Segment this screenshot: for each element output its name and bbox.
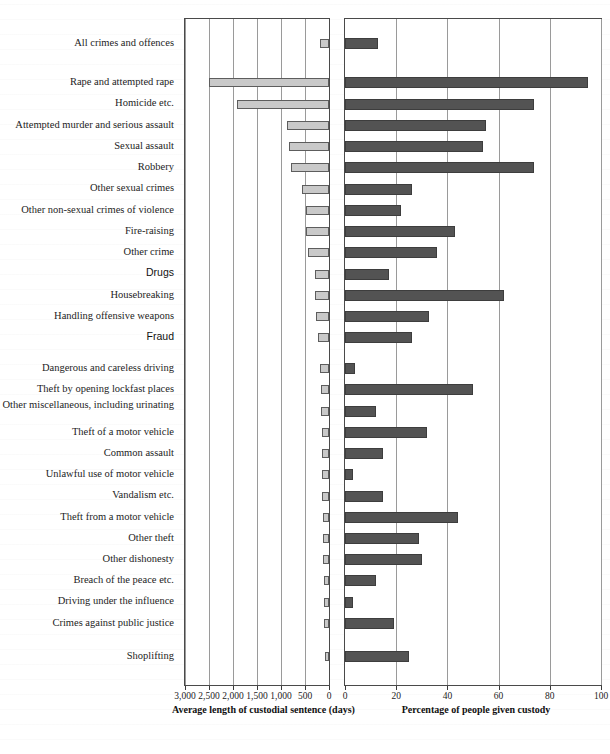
bar-percentage-custody <box>345 99 534 110</box>
bar-sentence-length <box>306 227 329 236</box>
axis-tick <box>305 686 306 690</box>
axis-tick <box>550 686 551 690</box>
bar-sentence-length <box>322 470 329 479</box>
bar-percentage-custody <box>345 332 412 343</box>
category-label-column: All crimes and offencesRape and attempte… <box>0 18 180 686</box>
category-label: Breach of the peace etc. <box>73 574 174 586</box>
bar-percentage-custody <box>345 597 353 608</box>
gridline <box>396 19 397 685</box>
bar-sentence-length <box>315 291 329 300</box>
bar-sentence-length <box>321 407 329 416</box>
bar-sentence-length <box>209 78 329 87</box>
axis-tick <box>233 686 234 690</box>
bar-sentence-length <box>324 619 329 628</box>
bar-percentage-custody <box>345 651 409 662</box>
category-label: Housebreaking <box>110 289 174 301</box>
panel-average-sentence-length <box>184 18 330 686</box>
category-label: Homicide etc. <box>115 97 174 109</box>
category-label: Other non-sexual crimes of violence <box>21 204 174 216</box>
bar-percentage-custody <box>345 247 437 258</box>
category-label: Robbery <box>138 161 174 173</box>
bar-percentage-custody <box>345 618 394 629</box>
axis-tick-label: 20 <box>372 691 420 701</box>
axis-tick <box>281 686 282 690</box>
axis-tick-label: 80 <box>526 691 574 701</box>
axis-tick <box>601 686 602 690</box>
axis-tick-label: 60 <box>475 691 523 701</box>
axis-tick <box>329 686 330 690</box>
category-label: Driving under the influence <box>58 595 174 607</box>
gridline <box>550 19 551 685</box>
left-axis-title: Average length of custodial sentence (da… <box>172 704 342 715</box>
bar-percentage-custody <box>345 269 389 280</box>
bar-sentence-length <box>323 513 329 522</box>
bar-sentence-length <box>302 185 329 194</box>
gridline <box>281 19 282 685</box>
gridline <box>257 19 258 685</box>
bar-percentage-custody <box>345 226 455 237</box>
category-label: Crimes against public justice <box>52 617 174 629</box>
bar-percentage-custody <box>345 384 473 395</box>
category-label: Theft of a motor vehicle <box>72 426 174 438</box>
category-label: Rape and attempted rape <box>70 76 174 88</box>
bar-sentence-length <box>323 534 329 543</box>
gridline <box>233 19 234 685</box>
category-label: Common assault <box>104 447 174 459</box>
bar-percentage-custody <box>345 448 383 459</box>
bar-sentence-length <box>322 449 329 458</box>
bar-percentage-custody <box>345 533 419 544</box>
right-axis-title: Percentage of people given custody <box>348 704 604 715</box>
bar-sentence-length <box>325 652 329 661</box>
bar-percentage-custody <box>345 141 483 152</box>
bar-sentence-length <box>324 598 329 607</box>
bar-percentage-custody <box>345 162 534 173</box>
gridline <box>499 19 500 685</box>
category-label: Theft from a motor vehicle <box>60 511 174 523</box>
axis-tick <box>209 686 210 690</box>
bar-percentage-custody <box>345 469 353 480</box>
bar-sentence-length <box>323 555 329 564</box>
category-label: Handling offensive weapons <box>54 310 174 322</box>
bar-percentage-custody <box>345 363 355 374</box>
category-label: Fire-raising <box>125 225 174 237</box>
bar-percentage-custody <box>345 575 376 586</box>
gridline <box>447 19 448 685</box>
bar-sentence-length <box>287 121 329 130</box>
bar-sentence-length <box>320 39 329 48</box>
bar-percentage-custody <box>345 184 412 195</box>
gridline <box>305 19 306 685</box>
bar-percentage-custody <box>345 77 588 88</box>
bar-sentence-length <box>316 312 329 321</box>
category-label: Drugs <box>146 267 174 279</box>
bar-percentage-custody <box>345 406 376 417</box>
panel-percentage-given-custody <box>344 18 602 686</box>
bar-sentence-length <box>324 576 329 585</box>
axis-tick <box>345 686 346 690</box>
category-label: Vandalism etc. <box>112 489 174 501</box>
bar-sentence-length <box>315 270 329 279</box>
bar-sentence-length <box>289 142 329 151</box>
category-label: Unlawful use of motor vehicle <box>46 468 174 480</box>
butterfly-bar-chart: All crimes and offencesRape and attempte… <box>0 0 610 754</box>
category-label: Other crime <box>124 246 174 258</box>
category-label: Sexual assault <box>114 140 174 152</box>
category-label: Other dishonesty <box>103 553 174 565</box>
axis-tick-label: 0 <box>321 691 369 701</box>
gridline <box>601 19 602 685</box>
bar-percentage-custody <box>345 38 378 49</box>
axis-tick <box>185 686 186 690</box>
axis-tick <box>396 686 397 690</box>
category-label: Other miscellaneous, including urinating <box>2 399 174 411</box>
axis-tick-label: 100 <box>577 691 610 701</box>
axis-tick <box>257 686 258 690</box>
bar-percentage-custody <box>345 290 504 301</box>
bar-percentage-custody <box>345 205 401 216</box>
axis-tick-label: 40 <box>423 691 471 701</box>
bar-sentence-length <box>320 364 329 373</box>
bar-sentence-length <box>322 428 329 437</box>
axis-tick <box>499 686 500 690</box>
gridline <box>185 19 186 685</box>
category-label: Theft by opening lockfast places <box>37 383 174 395</box>
axis-tick <box>447 686 448 690</box>
bar-sentence-length <box>322 492 329 501</box>
